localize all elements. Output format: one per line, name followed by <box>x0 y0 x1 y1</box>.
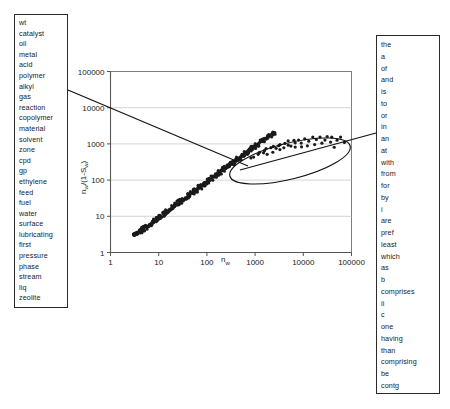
data-point <box>289 144 292 147</box>
data-point <box>313 143 316 146</box>
x-axis-title: nw <box>221 255 230 266</box>
y-tick-label: 100000 <box>78 68 105 77</box>
data-point <box>179 201 182 204</box>
data-point <box>275 147 278 150</box>
x-tick-label: 1000 <box>246 258 264 267</box>
data-point <box>184 197 187 200</box>
x-tick-label: 10 <box>154 258 163 267</box>
y-tick-label: 1 <box>100 249 105 258</box>
data-point <box>214 174 217 177</box>
x-tick-label: 1 <box>108 258 113 267</box>
x-tick-label: 100000 <box>338 258 365 267</box>
y-tick-label: 1000 <box>87 140 105 149</box>
data-point <box>307 140 310 143</box>
data-point <box>274 133 277 136</box>
data-point <box>329 140 332 143</box>
data-point <box>252 156 255 159</box>
x-tick-label: 10000 <box>292 258 315 267</box>
y-axis-title-wrap: nw/(1-Sw) <box>76 150 90 210</box>
x-tick-labels: 110100100010000100000 <box>108 258 365 267</box>
data-point <box>300 145 303 148</box>
scatter-chart: 100000100001000100101 110100100010000100… <box>0 0 450 409</box>
data-point <box>267 133 270 136</box>
data-point <box>193 193 196 196</box>
data-point <box>266 153 269 156</box>
data-point <box>189 190 192 193</box>
x-tick-label: 100 <box>200 258 214 267</box>
data-point <box>282 146 285 149</box>
data-point <box>320 142 323 145</box>
data-point <box>300 141 303 144</box>
data-point <box>257 143 260 146</box>
data-point <box>294 145 297 148</box>
data-point <box>211 179 214 182</box>
data-point <box>278 148 281 151</box>
data-point <box>239 156 242 159</box>
data-point <box>323 139 326 142</box>
y-tick-label: 10000 <box>82 104 105 113</box>
data-point <box>271 151 274 154</box>
y-tick-label: 100 <box>91 176 105 185</box>
y-tick-label: 10 <box>96 212 105 221</box>
data-point <box>287 139 290 142</box>
data-point <box>159 215 162 218</box>
y-axis-title: nw/(1-Sw) <box>79 147 90 207</box>
screenshot-root: wt catalyst oil metal acid polymer alkyl… <box>0 0 450 409</box>
data-point <box>306 144 309 147</box>
data-point <box>333 146 336 149</box>
data-point <box>181 198 184 201</box>
data-point <box>173 205 176 208</box>
data-point <box>243 154 246 157</box>
data-point <box>339 136 342 139</box>
